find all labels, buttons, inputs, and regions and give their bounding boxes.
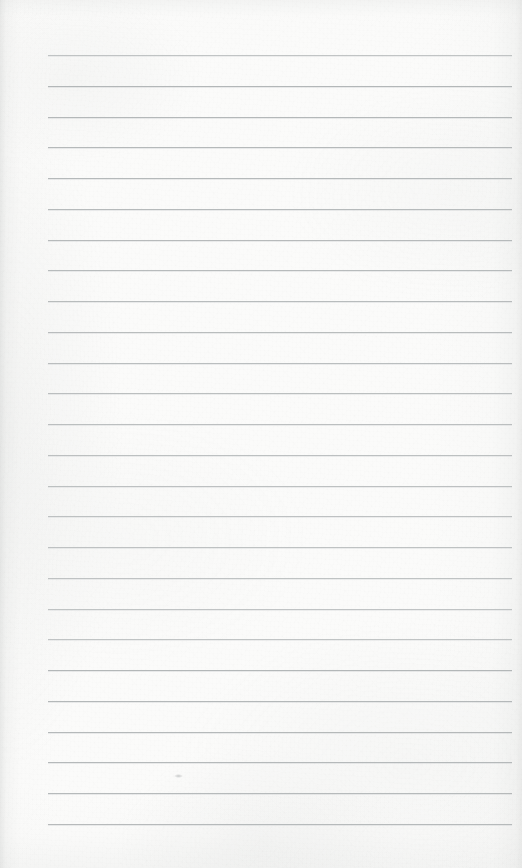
ruled-line	[48, 824, 512, 825]
ruled-line	[48, 240, 512, 241]
ruled-line	[48, 117, 512, 118]
ruled-line	[48, 793, 512, 794]
ruled-line	[48, 486, 512, 487]
ruled-line	[48, 547, 512, 548]
ruled-line	[48, 424, 512, 425]
ruled-line	[48, 762, 512, 763]
ruled-line	[48, 578, 512, 579]
ruled-line	[48, 301, 512, 302]
ruled-line	[48, 363, 512, 364]
ruled-line	[48, 55, 512, 56]
ruled-line	[48, 732, 512, 733]
ruled-line	[48, 516, 512, 517]
ruled-line	[48, 701, 512, 702]
ruled-line	[48, 178, 512, 179]
notebook-page	[0, 0, 522, 868]
ruled-line-group	[0, 0, 522, 868]
ruled-line	[48, 670, 512, 671]
ruled-line	[48, 270, 512, 271]
ruled-line	[48, 209, 512, 210]
ruled-line	[48, 147, 512, 148]
ruled-line	[48, 609, 512, 610]
ruled-line	[48, 332, 512, 333]
ruled-line	[48, 86, 512, 87]
ruled-line	[48, 393, 512, 394]
ruled-line	[48, 455, 512, 456]
ruled-line	[48, 639, 512, 640]
